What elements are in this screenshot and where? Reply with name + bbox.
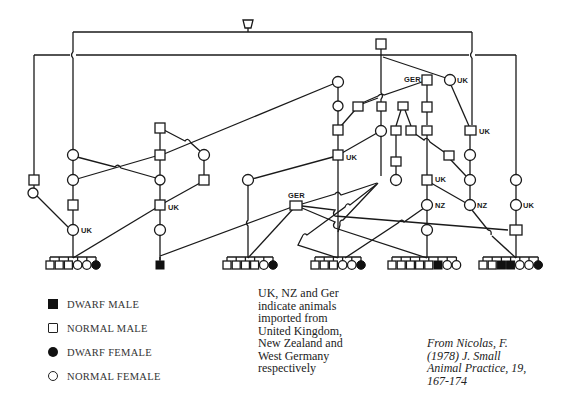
normal-female-icon bbox=[391, 175, 402, 186]
legend-item-dwarf-female: DWARF FEMALE bbox=[48, 340, 161, 364]
normal-male-icon bbox=[422, 75, 432, 85]
normal-male-icon bbox=[333, 150, 343, 160]
normal-female-icon bbox=[511, 175, 522, 186]
normal-male-icon bbox=[155, 123, 165, 133]
normal-female-icon bbox=[73, 261, 82, 270]
normal-female-icon bbox=[445, 75, 456, 86]
normal-female-icon bbox=[199, 150, 210, 161]
normal-male-icon bbox=[232, 261, 240, 269]
origin-tag-ger: GER bbox=[288, 191, 305, 200]
dwarf-male-icon bbox=[434, 261, 442, 269]
normal-male-icon bbox=[416, 261, 424, 269]
normal-male-icon bbox=[155, 150, 165, 160]
normal-female-icon bbox=[422, 200, 433, 211]
dwarf-female-icon bbox=[92, 261, 101, 270]
dwarf-male-icon bbox=[497, 261, 505, 269]
normal-female-icon bbox=[516, 261, 525, 270]
dwarf-female-icon bbox=[48, 347, 58, 357]
normal-female-icon bbox=[511, 200, 522, 211]
legend-item-normal-female: NORMAL FEMALE bbox=[48, 364, 161, 388]
dwarf-male-icon bbox=[507, 261, 515, 269]
normal-male-icon bbox=[397, 261, 405, 269]
normal-male-icon bbox=[333, 125, 343, 135]
citation: From Nicolas, F. (1978) J. Small Animal … bbox=[427, 337, 567, 387]
normal-male-icon bbox=[320, 261, 328, 269]
normal-female-icon bbox=[68, 225, 79, 236]
normal-female-icon bbox=[338, 261, 347, 270]
normal-male-icon bbox=[406, 126, 416, 135]
origin-tag-uk: UK bbox=[479, 127, 491, 136]
normal-female-icon bbox=[376, 126, 387, 137]
legend-label: DWARF MALE bbox=[67, 299, 139, 310]
founder-male-icon bbox=[243, 20, 253, 28]
normal-female-icon bbox=[422, 225, 433, 236]
normal-male-icon bbox=[311, 261, 319, 269]
normal-female-icon bbox=[155, 175, 165, 185]
origin-tag-uk: UK bbox=[81, 226, 93, 235]
normal-female-icon bbox=[243, 175, 254, 186]
normal-male-icon bbox=[406, 261, 414, 269]
normal-male-icon bbox=[353, 102, 363, 111]
normal-male-icon bbox=[376, 39, 386, 49]
pedigree-diagram: UK UK GER UK GER bbox=[0, 0, 569, 270]
normal-female-icon bbox=[452, 261, 461, 270]
normal-male-icon bbox=[422, 175, 432, 185]
normal-female-icon bbox=[28, 188, 38, 198]
origin-tag-uk: UK bbox=[523, 201, 535, 210]
normal-female-icon bbox=[465, 200, 476, 211]
dwarf-male-icon bbox=[48, 299, 58, 309]
normal-female-icon bbox=[465, 150, 476, 161]
normal-female-icon bbox=[48, 371, 58, 381]
normal-male-icon bbox=[444, 151, 454, 160]
origin-tag-uk: UK bbox=[457, 76, 469, 85]
normal-male-icon bbox=[64, 261, 72, 269]
legend-label: DWARF FEMALE bbox=[67, 347, 152, 358]
normal-female-icon bbox=[333, 101, 343, 111]
normal-female-icon bbox=[333, 77, 344, 88]
normal-female-icon bbox=[68, 175, 79, 186]
normal-female-icon bbox=[443, 261, 452, 270]
normal-male-icon bbox=[29, 175, 39, 185]
normal-male-icon bbox=[398, 102, 408, 110]
normal-male-icon bbox=[422, 102, 432, 112]
normal-male-icon bbox=[46, 261, 54, 269]
normal-male-icon bbox=[55, 261, 63, 269]
origin-tag-nz: NZ bbox=[477, 201, 488, 210]
normal-male-icon bbox=[241, 261, 249, 269]
normal-male-icon bbox=[68, 200, 78, 210]
normal-male-icon bbox=[479, 261, 487, 269]
normal-male-icon bbox=[223, 261, 231, 269]
legend-label: NORMAL MALE bbox=[67, 323, 148, 334]
normal-female-icon bbox=[348, 261, 357, 270]
normal-male-icon bbox=[251, 261, 259, 269]
normal-female-icon bbox=[465, 175, 476, 186]
origin-tag-ger: GER bbox=[404, 75, 421, 84]
normal-male-icon bbox=[377, 102, 386, 111]
pedigree-lines bbox=[34, 28, 516, 260]
sibship-group bbox=[46, 257, 543, 269]
normal-male-icon bbox=[510, 225, 522, 235]
normal-male-icon bbox=[155, 200, 165, 210]
normal-male-icon bbox=[391, 126, 401, 135]
normal-male-icon bbox=[329, 261, 337, 269]
origin-tag-uk: UK bbox=[435, 175, 447, 184]
normal-male-icon bbox=[388, 261, 396, 269]
legend-item-normal-male: NORMAL MALE bbox=[48, 316, 161, 340]
dwarf-female-icon bbox=[357, 261, 366, 270]
normal-male-icon bbox=[48, 323, 58, 333]
legend: DWARF MALE NORMAL MALE DWARF FEMALE NORM… bbox=[48, 292, 161, 388]
normal-male-icon bbox=[488, 261, 496, 269]
normal-female-icon bbox=[68, 150, 79, 161]
dwarf-male-icon bbox=[156, 261, 164, 269]
normal-female-icon bbox=[155, 225, 166, 236]
normal-female-icon bbox=[525, 261, 534, 270]
legend-item-dwarf-male: DWARF MALE bbox=[48, 292, 161, 316]
normal-male-icon bbox=[290, 201, 302, 210]
normal-female-icon bbox=[83, 261, 92, 270]
normal-female-icon bbox=[260, 261, 269, 270]
origin-tag-uk: UK bbox=[346, 153, 358, 162]
pedigree-individuals: UK UK GER UK GER bbox=[28, 20, 535, 236]
origin-tag-nz: NZ bbox=[435, 201, 446, 210]
legend-label: NORMAL FEMALE bbox=[67, 371, 161, 382]
origin-note: UK, NZ and Ger indicate animals imported… bbox=[258, 287, 388, 375]
